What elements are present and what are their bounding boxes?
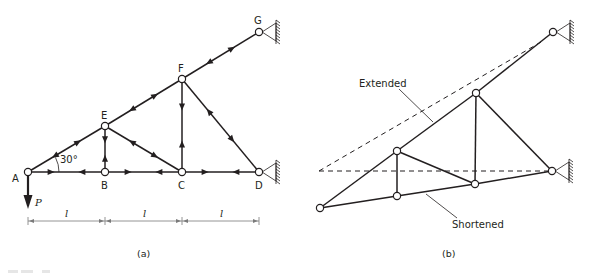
deformed-member-EC xyxy=(397,151,475,184)
support-hatch-line xyxy=(276,23,280,26)
joint-E-deformed xyxy=(393,147,400,154)
member-BC-arrow-1 xyxy=(125,169,132,175)
support-hatch-line xyxy=(276,26,280,29)
dimension-arrowhead xyxy=(176,219,181,223)
member-AB-arrow-2 xyxy=(78,169,85,175)
member-EC xyxy=(105,126,182,172)
support-hatch-line xyxy=(569,168,573,171)
support-hatch-line xyxy=(276,20,280,23)
joint-A-deformed xyxy=(316,204,323,211)
member-CD-arrow-2 xyxy=(232,169,239,175)
member-AE xyxy=(28,126,105,172)
member-EF xyxy=(105,79,182,126)
support-hatch-line xyxy=(276,181,280,184)
support-hatch-line xyxy=(276,169,280,172)
joint-F xyxy=(178,75,185,82)
support-hatch-line xyxy=(570,32,574,35)
support-hatch-line xyxy=(276,38,280,41)
joint-C xyxy=(178,168,185,175)
dimension-arrowhead xyxy=(106,219,111,223)
joint-E xyxy=(101,122,108,129)
support-hatch-line xyxy=(276,32,280,35)
figure-caption-fragment xyxy=(8,270,50,273)
joint-label-A: A xyxy=(12,173,19,184)
support-hatch-line xyxy=(276,178,280,181)
joint-label-F: F xyxy=(178,63,184,74)
extended-leader xyxy=(399,89,433,122)
joint-A xyxy=(24,168,31,175)
joint-label-C: C xyxy=(178,180,185,191)
support-hatch-line xyxy=(570,26,574,29)
member-CD-arrow-1 xyxy=(202,169,209,175)
joint-B-deformed xyxy=(393,192,400,199)
support-hatch-line xyxy=(569,171,573,174)
pin-support-D-b xyxy=(555,159,573,183)
member-AB-arrow-1 xyxy=(48,169,55,175)
original-top-chord xyxy=(319,42,541,171)
support-hatch-line xyxy=(569,174,573,177)
span-label-2: l xyxy=(143,208,146,219)
joint-D-deformed xyxy=(548,167,555,174)
dimension-arrowhead xyxy=(253,219,258,223)
support-hatch-line xyxy=(276,35,280,38)
joint-label-B: B xyxy=(101,180,108,191)
support-hatch-line xyxy=(570,41,574,44)
pin-support-D xyxy=(262,160,280,184)
support-hatch-line xyxy=(276,29,280,32)
joint-D xyxy=(255,168,262,175)
member-BC-arrow-2 xyxy=(155,169,162,175)
panel-b: Extended Shortened (b) xyxy=(316,20,574,259)
truss-figure: 30° P A B C D E F G xyxy=(0,0,591,278)
load-arrow-head xyxy=(24,195,33,209)
support-hatch-line xyxy=(569,177,573,180)
support-hatch-line xyxy=(569,159,573,162)
load-label: P xyxy=(34,197,42,208)
member-EB-arrow-1 xyxy=(102,136,108,143)
deformed-member-AB xyxy=(320,196,397,208)
support-hatch-line xyxy=(569,165,573,168)
shortened-label: Shortened xyxy=(452,219,504,230)
deformed-member-FG xyxy=(476,32,553,93)
angle-arc xyxy=(56,158,60,173)
caption-b: (b) xyxy=(442,248,455,259)
panel-a: 30° P A B C D E F G xyxy=(12,15,280,259)
member-EB-arrow-2 xyxy=(102,155,108,162)
support-hatch-line xyxy=(276,163,280,166)
extended-label: Extended xyxy=(359,78,407,89)
angle-label: 30° xyxy=(60,154,78,165)
pin-support-G-b xyxy=(556,20,574,44)
dimension-arrowhead xyxy=(183,219,188,223)
shortened-leader xyxy=(426,194,457,218)
support-hatch-line xyxy=(276,175,280,178)
deformed-member-BC xyxy=(397,184,475,196)
member-FC-arrow-2 xyxy=(179,141,185,148)
member-FC-arrow-1 xyxy=(179,103,185,110)
support-hatch-line xyxy=(570,35,574,38)
dimension-arrowhead xyxy=(99,219,104,223)
joint-label-G: G xyxy=(254,15,262,26)
support-hatch-line xyxy=(569,180,573,183)
support-hatch-line xyxy=(570,29,574,32)
deformed-member-FC xyxy=(475,93,476,184)
caption-a: (a) xyxy=(137,248,150,259)
dimension-arrowhead xyxy=(29,219,34,223)
deformed-member-AE xyxy=(320,151,397,208)
support-hatch-line xyxy=(276,160,280,163)
support-hatch-line xyxy=(276,166,280,169)
support-hatch-line xyxy=(570,23,574,26)
support-hatch-line xyxy=(570,38,574,41)
pin-support-G xyxy=(262,20,280,44)
span-label-3: l xyxy=(220,208,223,219)
support-hatch-line xyxy=(569,162,573,165)
span-label-1: l xyxy=(65,208,68,219)
deformed-member-CD xyxy=(475,171,552,184)
joint-F-deformed xyxy=(472,89,479,96)
member-FG xyxy=(182,32,259,79)
member-FD xyxy=(182,79,259,172)
support-hatch-line xyxy=(570,20,574,23)
joint-G-deformed xyxy=(549,28,556,35)
joint-label-E: E xyxy=(101,110,107,121)
support-hatch-line xyxy=(276,41,280,44)
joint-G xyxy=(255,28,262,35)
joint-C-deformed xyxy=(471,180,478,187)
